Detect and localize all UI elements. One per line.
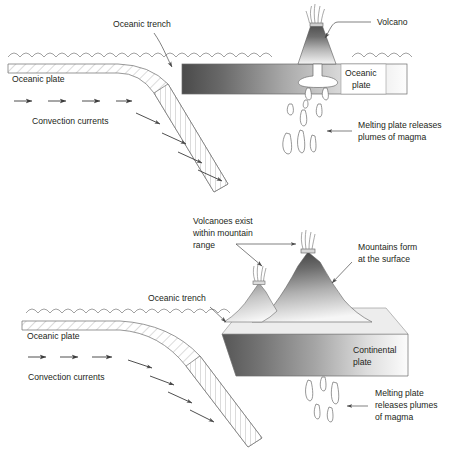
subduction-figure: Oceanic trench Volcano Oceanic plate Oce…: [0, 0, 470, 464]
lower-mountain-small: [224, 283, 277, 322]
lower-label-volcanoes-line2: within mountain: [192, 228, 253, 238]
lower-sea-surface-wave: [26, 309, 230, 313]
upper-label-melting-line2: plumes of magma: [358, 132, 427, 142]
upper-magma-neck-right: [322, 88, 328, 100]
upper-label-oceanic-trench: Oceanic trench: [113, 19, 171, 29]
lower-label-melting-line3: of magma: [375, 412, 413, 422]
upper-volcano-leader: [325, 22, 371, 38]
lower-magma-plumes: [306, 377, 339, 422]
upper-label-oceanic-plate-right-line2: plate: [352, 80, 371, 90]
upper-magma-neck-left: [305, 88, 311, 100]
lower-panel: Volcanoes exist within mountain range Mo…: [22, 216, 438, 447]
upper-label-convection-currents: Convection currents: [32, 116, 108, 126]
lower-continental-plate: [222, 334, 408, 376]
lower-label-volcanoes-line3: range: [193, 240, 215, 250]
upper-volcano-cone: [298, 25, 336, 64]
upper-panel: Oceanic trench Volcano Oceanic plate Oce…: [8, 4, 442, 192]
upper-subducting-slab: [154, 84, 228, 192]
upper-label-oceanic-plate-left: Oceanic plate: [12, 74, 65, 84]
lower-label-mountains-line1: Mountains form: [358, 242, 417, 252]
lower-volcano-crater-large: [301, 249, 315, 253]
lower-label-convection-currents: Convection currents: [28, 372, 104, 382]
lower-label-melting-line2: releases plumes: [375, 400, 438, 410]
lower-label-mountains-line2: at the surface: [358, 254, 410, 264]
lower-label-volcanoes-line1: Volcanoes exist: [193, 216, 253, 226]
subduction-diagram-root: Oceanic trench Volcano Oceanic plate Oce…: [0, 0, 470, 464]
upper-volcano-eruption-plume: [306, 4, 325, 23]
upper-label-melting-line1: Melting plate releases: [358, 120, 442, 130]
upper-trench-leader: [154, 33, 172, 67]
lower-label-oceanic-plate: Oceanic plate: [27, 331, 80, 341]
upper-label-oceanic-plate-right-line1: Oceanic: [345, 68, 377, 78]
lower-volcano-crater-small: [253, 281, 265, 285]
lower-label-melting-line1: Melting plate: [375, 388, 424, 398]
lower-label-continental-plate-line2: plate: [353, 357, 372, 367]
sea-surface-wave-left: [8, 53, 272, 57]
lower-label-oceanic-trench: Oceanic trench: [148, 293, 206, 303]
lower-label-continental-plate-line1: Continental: [353, 345, 397, 355]
upper-label-volcano: Volcano: [377, 17, 408, 27]
sea-surface-wave-right: [352, 53, 412, 57]
lower-eruption-plume-small: [253, 264, 266, 281]
lower-eruption-plume-large: [301, 230, 315, 249]
upper-magma-plumes: [283, 100, 322, 154]
lower-volcanoes-leader-a: [236, 244, 262, 266]
upper-volcano-crater: [310, 23, 323, 27]
lower-mountains-leader: [332, 262, 352, 283]
